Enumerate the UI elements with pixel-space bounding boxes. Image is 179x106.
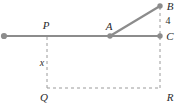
solid-segment-a-b bbox=[110, 6, 160, 36]
point-marker-a bbox=[107, 33, 112, 38]
point-marker-left-end bbox=[1, 33, 7, 39]
measure-label-4: 4 bbox=[166, 16, 171, 26]
measure-label-x: x bbox=[40, 58, 44, 68]
point-label-p: P bbox=[43, 20, 50, 31]
point-label-a: A bbox=[106, 21, 113, 32]
figure-canvas bbox=[0, 0, 179, 106]
point-label-r: R bbox=[167, 92, 174, 103]
point-marker-c bbox=[157, 33, 162, 38]
point-label-c: C bbox=[166, 31, 173, 42]
point-label-q: Q bbox=[40, 92, 48, 103]
geometry-diagram: P A B C Q R x 4 bbox=[0, 0, 179, 106]
point-marker-b bbox=[157, 3, 162, 8]
point-label-b: B bbox=[167, 1, 174, 12]
